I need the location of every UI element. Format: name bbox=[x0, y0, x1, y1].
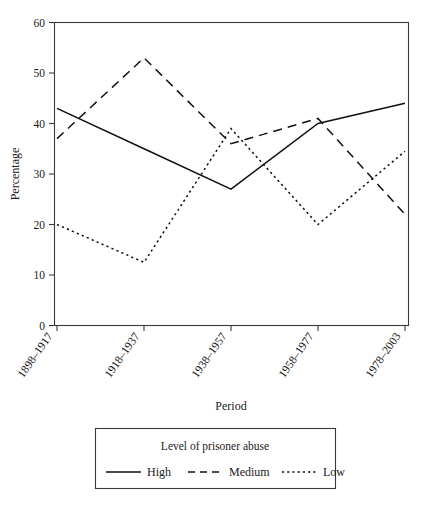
legend-label-medium: Medium bbox=[229, 465, 270, 479]
x-tick-group: 1898–1917 bbox=[15, 326, 57, 380]
x-tick-label: 1978–2003 bbox=[363, 330, 403, 379]
y-tick-label: 0 bbox=[39, 320, 45, 332]
y-tick-group: 10 bbox=[34, 269, 55, 281]
legend-item-high[interactable]: High bbox=[106, 465, 171, 479]
legend: Level of prisoner abuse High Medium Low bbox=[96, 429, 346, 489]
y-tick-label: 40 bbox=[34, 118, 46, 130]
chart-figure: 0 10 20 30 40 50 bbox=[0, 0, 430, 505]
line-chart-svg: 0 10 20 30 40 50 bbox=[0, 0, 430, 505]
series-line-low bbox=[57, 129, 405, 263]
y-tick-group: 0 bbox=[39, 320, 54, 332]
series-line-medium bbox=[57, 58, 405, 215]
x-tick-group: 1918–1937 bbox=[102, 326, 144, 380]
legend-title: Level of prisoner abuse bbox=[161, 440, 269, 453]
x-tick-group: 1978–2003 bbox=[363, 326, 405, 380]
y-tick-label: 60 bbox=[34, 17, 46, 29]
x-tick-label: 1918–1937 bbox=[102, 330, 142, 379]
x-tick-label: 1938–1957 bbox=[189, 330, 229, 379]
legend-label-high: High bbox=[147, 465, 171, 479]
legend-label-low: Low bbox=[323, 465, 345, 479]
legend-item-medium[interactable]: Medium bbox=[188, 465, 270, 479]
y-tick-label: 10 bbox=[34, 269, 46, 281]
x-tick-group: 1958–1977 bbox=[276, 326, 318, 380]
x-tick-group: 1938–1957 bbox=[189, 326, 231, 380]
y-tick-group: 20 bbox=[34, 219, 55, 231]
x-axis-title: Period bbox=[215, 399, 246, 413]
x-tick-label: 1898–1917 bbox=[15, 330, 55, 379]
y-tick-group: 30 bbox=[34, 168, 55, 180]
x-axis: 1898–1917 1918–1937 1938–1957 1958–1977 … bbox=[15, 326, 405, 380]
y-tick-group: 40 bbox=[34, 118, 55, 130]
y-tick-label: 20 bbox=[34, 219, 46, 231]
y-axis: 0 10 20 30 40 50 bbox=[34, 17, 55, 332]
y-axis-title: Percentage bbox=[8, 148, 22, 201]
y-tick-group: 50 bbox=[34, 67, 55, 79]
x-tick-label: 1958–1977 bbox=[276, 330, 316, 379]
series-group bbox=[57, 58, 405, 263]
legend-frame bbox=[96, 429, 336, 489]
y-tick-group: 60 bbox=[34, 17, 55, 29]
series-line-high bbox=[57, 103, 405, 189]
y-tick-label: 50 bbox=[34, 67, 46, 79]
y-tick-label: 30 bbox=[34, 168, 46, 180]
legend-item-low[interactable]: Low bbox=[282, 465, 345, 479]
plot-frame bbox=[55, 23, 409, 326]
